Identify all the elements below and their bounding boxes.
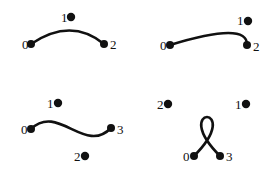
control-point-panel-bottom-right-3[interactable] <box>216 152 224 160</box>
control-point-panel-top-right-0[interactable] <box>166 41 174 49</box>
control-point-panel-bottom-left-1[interactable] <box>54 99 62 107</box>
control-point-panel-bottom-right-0[interactable] <box>190 152 198 160</box>
bezier-figure: 01201201232103 <box>0 0 272 178</box>
control-point-panel-bottom-right-2[interactable] <box>164 100 172 108</box>
control-point-panel-top-left-2[interactable] <box>100 40 108 48</box>
control-label-panel-top-right-2: 2 <box>253 39 260 54</box>
quadratic-bezier-arch-path <box>31 31 104 45</box>
control-label-panel-bottom-left-0: 0 <box>21 122 28 137</box>
control-label-panel-top-right-0: 0 <box>160 38 167 53</box>
control-point-panel-bottom-left-3[interactable] <box>107 124 115 132</box>
control-label-panel-top-left-2: 2 <box>110 37 117 52</box>
control-label-panel-top-right-1: 1 <box>237 13 244 28</box>
control-point-panel-bottom-right-1[interactable] <box>242 100 250 108</box>
curve-group <box>31 31 247 157</box>
control-label-panel-bottom-right-2: 2 <box>157 97 164 112</box>
control-label-panel-bottom-left-3: 3 <box>117 122 124 137</box>
bezier-canvas: 01201201232103 <box>0 0 272 178</box>
control-label-panel-bottom-right-3: 3 <box>226 149 233 164</box>
control-label-panel-bottom-left-1: 1 <box>47 96 54 111</box>
control-label-panel-top-left-1: 1 <box>61 10 68 25</box>
cubic-bezier-loop-path <box>194 117 220 156</box>
control-label-panel-bottom-right-0: 0 <box>183 149 190 164</box>
control-point-panel-top-right-1[interactable] <box>244 17 252 25</box>
control-point-panel-bottom-left-2[interactable] <box>81 152 89 160</box>
cubic-bezier-s-curve-path <box>31 121 111 136</box>
control-label-panel-top-left-0: 0 <box>22 37 29 52</box>
control-label-panel-bottom-right-1: 1 <box>235 97 242 112</box>
control-point-panel-top-right-2[interactable] <box>243 41 251 49</box>
control-point-panel-top-left-1[interactable] <box>67 13 75 21</box>
control-point-panel-bottom-left-0[interactable] <box>27 125 35 133</box>
control-label-panel-bottom-left-2: 2 <box>74 149 81 164</box>
quadratic-bezier-hook-path <box>170 33 247 45</box>
